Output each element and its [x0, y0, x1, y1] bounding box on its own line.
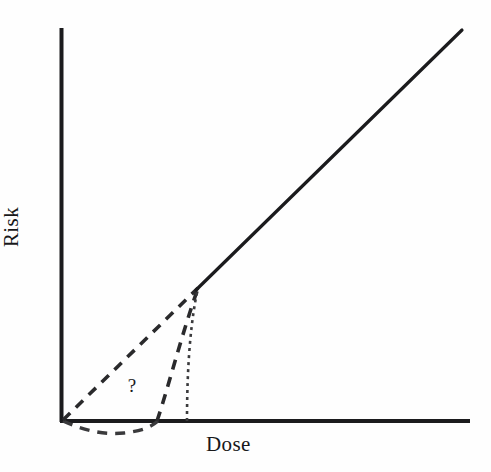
uncertainty-question-mark: ? [128, 375, 136, 397]
dose-response-figure: ? Dose Risk [0, 0, 491, 472]
series-sublinear-extrapolation [157, 288, 198, 421]
x-axis-label: Dose [206, 432, 251, 457]
series-observed-linear-response [196, 30, 462, 290]
y-axis-label: Risk [0, 196, 24, 258]
series-supralinear-extrapolation [63, 288, 198, 420]
dose-response-chart-canvas [0, 0, 491, 472]
series-threshold-extrapolation [187, 288, 198, 421]
